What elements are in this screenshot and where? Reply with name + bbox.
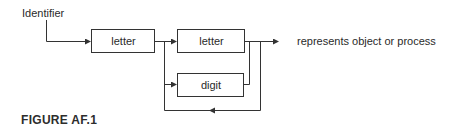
output-label: represents object or process [297, 36, 436, 47]
letter1-label: letter [92, 36, 155, 47]
figure-caption: FIGURE AF.1 [21, 114, 97, 126]
syntax-diagram [0, 0, 459, 129]
loop-back-line [165, 42, 261, 111]
start-label: Identifier [22, 8, 64, 19]
digit-label: digit [178, 80, 244, 91]
letter2-label: letter [178, 36, 245, 47]
loop-back-arrow [209, 108, 215, 114]
entry-line [47, 20, 91, 42]
